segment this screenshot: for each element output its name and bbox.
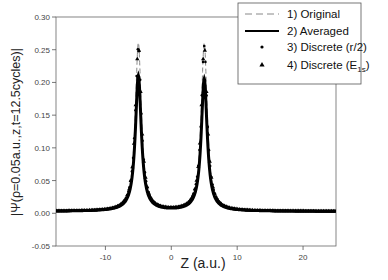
series-point-discrete-r2 <box>195 183 198 186</box>
series-point-discrete-r2 <box>145 180 148 183</box>
chart: -0.050.000.050.100.150.200.250.30 -10010… <box>0 0 388 280</box>
legend-label: 3) Discrete (r/2) <box>287 41 367 53</box>
series-line-averaged <box>56 75 336 211</box>
y-tick-label: 0.30 <box>34 13 50 22</box>
series-point-discrete-r2 <box>134 109 137 112</box>
y-tick-label: 0.25 <box>34 46 50 55</box>
x-tick-label: 10 <box>233 253 242 262</box>
series-point-discrete-r2 <box>144 171 147 174</box>
series-point-discrete-r2 <box>141 139 144 142</box>
y-tick-label: 0.00 <box>34 209 50 218</box>
series-point-discrete-r2 <box>211 183 214 186</box>
series-point-discrete-r2 <box>202 61 205 64</box>
series-point-discrete-r2 <box>132 157 135 160</box>
y-tick-label: 0.15 <box>34 111 50 120</box>
x-axis-title: Z (a.u.) <box>180 255 225 271</box>
y-axis-title: |Ψ(ρ=0.05a.u.,z,t=12.5cycles)| <box>9 48 23 216</box>
series-point-discrete-r2 <box>208 149 211 152</box>
series-point-discrete-r2 <box>131 170 134 173</box>
y-tick-label: 0.10 <box>34 144 50 153</box>
series-point-discrete-r2 <box>198 149 201 152</box>
y-tick-label: 0.05 <box>34 177 50 186</box>
x-tick-label: 0 <box>169 253 174 262</box>
series-point-discrete-r2 <box>203 45 206 48</box>
x-tick-label: -10 <box>100 253 112 262</box>
legend-label: 2) Averaged <box>287 25 349 37</box>
y-tick-label: -0.05 <box>32 242 51 251</box>
series-point-discrete-e1s <box>201 56 205 60</box>
series-point-discrete-r2 <box>201 94 204 97</box>
series-point-discrete-r2 <box>204 61 207 64</box>
y-tick-label: 0.20 <box>34 78 50 87</box>
y-axis-ticks: -0.050.000.050.100.150.200.250.30 <box>32 13 56 251</box>
legend-symbol-dot <box>260 45 263 48</box>
series-point-discrete-r2 <box>212 189 215 192</box>
legend: 1) Original2) Averaged3) Discrete (r/2)4… <box>238 3 370 84</box>
legend-label: 1) Original <box>287 8 340 20</box>
series-point-discrete-e1s <box>135 56 139 60</box>
series-point-discrete-r2 <box>135 75 138 78</box>
series-point-discrete-r2 <box>139 79 142 82</box>
series-point-discrete-r2 <box>196 175 199 178</box>
series-point-discrete-r2 <box>205 94 208 97</box>
series-point-discrete-r2 <box>206 126 209 129</box>
x-tick-label: 20 <box>299 253 308 262</box>
series-point-discrete-r2 <box>199 126 202 129</box>
series-point-discrete-r2 <box>140 112 143 115</box>
series-point-discrete-r2 <box>133 137 136 140</box>
series-point-discrete-r2 <box>209 165 212 168</box>
